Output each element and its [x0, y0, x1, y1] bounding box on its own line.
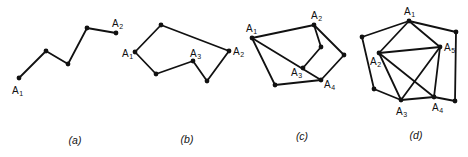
edge [455, 32, 456, 101]
edge [135, 25, 161, 52]
edge [252, 25, 314, 38]
vertex-dot [133, 50, 138, 55]
vertex-dot [44, 49, 49, 54]
vertex-label: A1 [12, 85, 23, 97]
vertex-label: A1 [404, 6, 415, 18]
vertex-label: A1 [122, 48, 133, 60]
edge [321, 55, 344, 80]
vertex-label: A4 [432, 102, 443, 114]
edge [379, 53, 434, 97]
vertex-dot [17, 76, 22, 81]
vertex-dot [342, 53, 347, 58]
vertex-label: A5 [444, 42, 455, 54]
vertex-dot [159, 23, 164, 28]
panel-b: A1A2A3(b) [122, 23, 244, 145]
edge [156, 61, 193, 74]
vertex-label: A3 [190, 48, 201, 60]
vertex-dot [372, 87, 377, 92]
vertex-dot [432, 95, 437, 100]
vertex-dot [377, 51, 382, 56]
vertex-dot [66, 62, 71, 67]
vertex-dot [191, 59, 196, 64]
edge [19, 51, 46, 78]
vertex-dot [453, 99, 458, 104]
edge [68, 28, 87, 64]
vertex-label: A2 [311, 10, 322, 22]
vertex-dot [205, 79, 210, 84]
panel-caption: (a) [69, 134, 82, 146]
vertex-dot [399, 98, 404, 103]
edge [434, 97, 455, 101]
vertex-dot [438, 45, 443, 50]
vertex-dot [301, 66, 306, 71]
edge [46, 51, 68, 64]
edge [207, 51, 229, 81]
vertex-dot [312, 23, 317, 28]
vertex-dot [360, 35, 365, 40]
edge [303, 47, 321, 68]
polygon-diagram: A1A2(a)A1A2A3(b)A1A2A3A4(c)A1A2A3A4A5(d) [0, 0, 468, 157]
vertex-dot [154, 72, 159, 77]
vertex-label: A3 [291, 67, 302, 79]
edge [379, 47, 440, 53]
panel-caption: (d) [410, 129, 423, 141]
vertex-label: A4 [324, 79, 335, 91]
vertex-dot [85, 26, 90, 31]
panel-caption: (c) [296, 130, 308, 142]
vertex-dot [273, 83, 278, 88]
panel-caption: (b) [181, 133, 194, 145]
vertex-label: A3 [396, 106, 407, 118]
vertex-dot [407, 19, 412, 24]
edge [193, 61, 207, 81]
vertex-dot [250, 36, 255, 41]
vertex-dot [454, 30, 459, 35]
panel-c: A1A2A3A4(c) [246, 10, 346, 142]
edge [401, 97, 434, 100]
vertex-dot [227, 49, 232, 54]
vertex-label: A2 [370, 56, 381, 68]
vertex-label: A1 [246, 23, 257, 35]
edge [275, 80, 321, 85]
vertex-dot [319, 78, 324, 83]
panel-d: A1A2A3A4A5(d) [360, 6, 459, 141]
vertex-label: A2 [112, 18, 123, 30]
panel-a: A1A2(a) [12, 18, 123, 146]
vertex-dot [114, 31, 119, 36]
vertex-dot [319, 45, 324, 50]
edge [135, 52, 156, 74]
vertex-label: A2 [233, 46, 244, 58]
